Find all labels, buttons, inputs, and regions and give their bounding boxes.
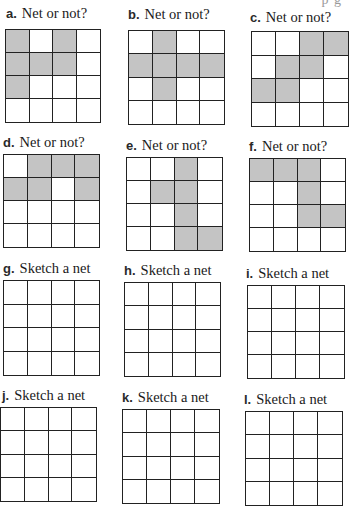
square-grid[interactable]: [247, 285, 345, 379]
shaded-square[interactable]: [252, 79, 276, 103]
empty-square[interactable]: [53, 99, 77, 122]
empty-square[interactable]: [151, 227, 175, 250]
empty-square[interactable]: [75, 281, 99, 305]
empty-square[interactable]: [324, 56, 348, 80]
empty-square[interactable]: [294, 459, 318, 482]
shaded-square[interactable]: [175, 204, 199, 227]
empty-square[interactable]: [147, 457, 171, 480]
empty-square[interactable]: [127, 158, 151, 181]
empty-square[interactable]: [149, 283, 173, 306]
empty-square[interactable]: [252, 103, 276, 127]
empty-square[interactable]: [28, 305, 52, 329]
empty-square[interactable]: [125, 330, 149, 353]
empty-square[interactable]: [129, 31, 153, 54]
empty-square[interactable]: [250, 182, 274, 205]
empty-square[interactable]: [248, 286, 272, 309]
empty-square[interactable]: [4, 201, 28, 224]
empty-square[interactable]: [149, 353, 173, 376]
empty-square[interactable]: [173, 330, 197, 353]
empty-square[interactable]: [246, 435, 270, 458]
shaded-square[interactable]: [298, 182, 322, 205]
empty-square[interactable]: [177, 78, 201, 101]
empty-square[interactable]: [77, 76, 101, 99]
empty-square[interactable]: [49, 455, 73, 478]
empty-square[interactable]: [252, 32, 276, 56]
empty-square[interactable]: [200, 101, 224, 124]
empty-square[interactable]: [53, 76, 77, 99]
empty-square[interactable]: [129, 101, 153, 124]
empty-square[interactable]: [147, 410, 171, 433]
shaded-square[interactable]: [300, 56, 324, 80]
empty-square[interactable]: [30, 99, 54, 122]
empty-square[interactable]: [276, 103, 300, 127]
empty-square[interactable]: [127, 204, 151, 227]
empty-square[interactable]: [248, 332, 272, 355]
shaded-square[interactable]: [75, 155, 99, 178]
empty-square[interactable]: [6, 99, 30, 122]
empty-square[interactable]: [272, 355, 296, 378]
empty-square[interactable]: [300, 79, 324, 103]
empty-square[interactable]: [171, 410, 195, 433]
square-grid[interactable]: [124, 282, 221, 377]
empty-square[interactable]: [30, 76, 54, 99]
empty-square[interactable]: [195, 457, 219, 480]
empty-square[interactable]: [125, 306, 149, 329]
shaded-square[interactable]: [153, 31, 177, 54]
empty-square[interactable]: [274, 228, 298, 251]
shaded-square[interactable]: [250, 159, 274, 182]
empty-square[interactable]: [1, 431, 25, 454]
empty-square[interactable]: [246, 459, 270, 482]
shaded-square[interactable]: [200, 54, 224, 77]
empty-square[interactable]: [318, 482, 342, 505]
empty-square[interactable]: [298, 228, 322, 251]
empty-square[interactable]: [28, 201, 52, 224]
empty-square[interactable]: [52, 224, 76, 247]
empty-square[interactable]: [125, 353, 149, 376]
shaded-square[interactable]: [153, 78, 177, 101]
empty-square[interactable]: [25, 478, 49, 501]
empty-square[interactable]: [195, 433, 219, 456]
empty-square[interactable]: [270, 459, 294, 482]
empty-square[interactable]: [4, 155, 28, 178]
shaded-square[interactable]: [53, 53, 77, 76]
shaded-square[interactable]: [153, 54, 177, 77]
empty-square[interactable]: [300, 103, 324, 127]
empty-square[interactable]: [1, 478, 25, 501]
square-grid[interactable]: [3, 280, 100, 376]
empty-square[interactable]: [49, 408, 73, 431]
empty-square[interactable]: [149, 330, 173, 353]
empty-square[interactable]: [196, 353, 220, 376]
shaded-square[interactable]: [175, 227, 199, 250]
shaded-square[interactable]: [298, 159, 322, 182]
empty-square[interactable]: [274, 205, 298, 228]
empty-square[interactable]: [77, 30, 101, 53]
empty-square[interactable]: [272, 332, 296, 355]
empty-square[interactable]: [52, 328, 76, 352]
empty-square[interactable]: [72, 431, 96, 454]
empty-square[interactable]: [28, 224, 52, 247]
empty-square[interactable]: [321, 159, 345, 182]
shaded-square[interactable]: [6, 53, 30, 76]
empty-square[interactable]: [52, 201, 76, 224]
empty-square[interactable]: [294, 412, 318, 435]
empty-square[interactable]: [25, 431, 49, 454]
empty-square[interactable]: [123, 410, 147, 433]
shaded-square[interactable]: [175, 181, 199, 204]
empty-square[interactable]: [248, 309, 272, 332]
shaded-square[interactable]: [129, 54, 153, 77]
empty-square[interactable]: [296, 309, 320, 332]
empty-square[interactable]: [196, 306, 220, 329]
shaded-square[interactable]: [276, 79, 300, 103]
empty-square[interactable]: [177, 31, 201, 54]
empty-square[interactable]: [153, 101, 177, 124]
empty-square[interactable]: [49, 478, 73, 501]
empty-square[interactable]: [250, 205, 274, 228]
empty-square[interactable]: [198, 158, 222, 181]
empty-square[interactable]: [198, 204, 222, 227]
square-grid[interactable]: [245, 411, 343, 506]
empty-square[interactable]: [294, 435, 318, 458]
empty-square[interactable]: [272, 286, 296, 309]
empty-square[interactable]: [4, 352, 28, 376]
empty-square[interactable]: [270, 412, 294, 435]
empty-square[interactable]: [171, 457, 195, 480]
